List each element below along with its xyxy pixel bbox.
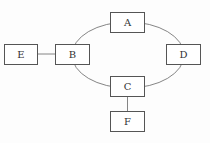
node-b-label: B (69, 49, 76, 60)
node-d-label: D (179, 49, 187, 60)
node-a-label: A (124, 17, 131, 28)
node-e: E (4, 44, 38, 65)
node-d: D (166, 44, 201, 65)
connections (0, 0, 210, 143)
node-c: C (110, 76, 145, 97)
node-c-label: C (124, 81, 132, 92)
node-b: B (55, 44, 90, 65)
node-e-label: E (17, 49, 24, 60)
node-a: A (110, 12, 145, 33)
node-f-label: F (124, 116, 131, 127)
node-f: F (110, 111, 145, 132)
